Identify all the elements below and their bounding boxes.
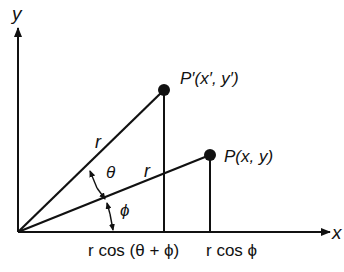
theta-label: θ (106, 163, 116, 182)
point-p-prime-label: P′(x′, y′) (180, 69, 239, 88)
x-axis-label: x (331, 222, 343, 243)
y-axis-label: y (10, 3, 23, 24)
point-p (204, 149, 216, 161)
rotation-diagram: y x P′(x′, y′) P(x, y) r r θ ϕ r cos (θ … (0, 0, 344, 272)
x-annotation-right: r cos ϕ (206, 241, 257, 260)
phi-arrow (107, 203, 110, 214)
point-p-prime (158, 84, 170, 96)
r-lower-label: r (144, 161, 151, 181)
r-upper-label: r (95, 132, 102, 152)
theta-arrow (90, 171, 97, 188)
point-p-label: P(x, y) (224, 147, 273, 166)
phi-arrow (110, 214, 113, 230)
theta-arrow (97, 188, 105, 199)
radius-to-p-prime (18, 90, 164, 232)
phi-label: ϕ (120, 201, 129, 220)
diagram-svg: y x P′(x′, y′) P(x, y) r r θ ϕ r cos (θ … (0, 0, 344, 272)
x-annotation-left: r cos (θ + ϕ) (88, 241, 179, 260)
